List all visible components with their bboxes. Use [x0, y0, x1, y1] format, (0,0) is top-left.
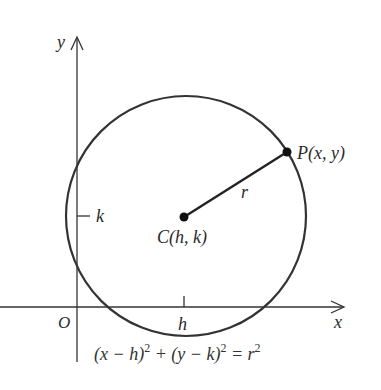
k-label: k — [96, 206, 105, 226]
equation: (x − h)2 + (y − k)2 = r2 — [94, 341, 261, 365]
y-axis-label: y — [55, 32, 65, 52]
radius-label: r — [241, 182, 249, 202]
origin-label: O — [58, 313, 70, 332]
equation-equals: = r — [226, 344, 255, 364]
point-p — [283, 148, 292, 157]
equation-plus: + (y − k) — [150, 344, 220, 365]
center-point — [180, 213, 189, 222]
equation-exp3: 2 — [255, 341, 261, 355]
circle-diagram: y x O h k C(h, k) P(x, y) r (x − h)2 + (… — [0, 0, 381, 390]
point-label: P(x, y) — [296, 143, 345, 164]
h-label: h — [178, 314, 187, 334]
x-axis-label: x — [333, 312, 342, 332]
radius-line — [184, 152, 287, 217]
center-label: C(h, k) — [157, 227, 207, 248]
equation-part1: (x − h) — [94, 344, 144, 365]
